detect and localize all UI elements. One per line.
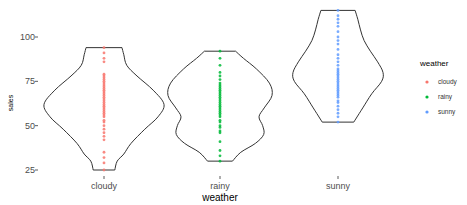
point-sunny [337, 53, 340, 56]
point-cloudy [103, 162, 106, 165]
y-tick-label: 50 [25, 121, 35, 131]
legend-label-rainy: rainy [438, 93, 453, 101]
x-tick-label: cloudy [91, 181, 118, 191]
point-cloudy [103, 60, 106, 63]
point-cloudy [103, 46, 106, 49]
x-axis-title: weather [201, 192, 238, 203]
point-rainy [219, 140, 222, 143]
legend-label-sunny: sunny [438, 108, 456, 116]
point-cloudy [103, 119, 106, 122]
x-tick-label: rainy [210, 181, 230, 191]
point-cloudy [103, 151, 106, 154]
point-sunny [337, 64, 340, 67]
legend-label-cloudy: cloudy [438, 78, 458, 86]
point-sunny [337, 121, 340, 124]
point-rainy [219, 82, 222, 85]
point-sunny [337, 108, 340, 111]
point-sunny [337, 43, 340, 46]
point-cloudy [103, 124, 106, 127]
point-rainy [219, 124, 222, 127]
point-cloudy [103, 138, 106, 141]
point-sunny [337, 18, 340, 21]
point-rainy [219, 154, 222, 157]
point-cloudy [103, 73, 106, 76]
point-cloudy [103, 131, 106, 134]
legend-key-rainy [425, 95, 428, 98]
point-rainy [219, 78, 222, 81]
point-sunny [337, 60, 340, 63]
legend-key-cloudy [425, 80, 428, 83]
point-sunny [337, 39, 340, 42]
point-sunny [337, 14, 340, 17]
point-rainy [219, 130, 222, 133]
point-rainy [219, 50, 222, 53]
violin-chart: 255075100 cloudyrainysunny weather sales… [0, 0, 467, 205]
legend-title: weather [419, 59, 449, 68]
point-sunny [337, 30, 340, 33]
data-points [103, 9, 340, 171]
x-tick-label: sunny [326, 181, 351, 191]
point-sunny [337, 105, 340, 108]
point-sunny [337, 99, 340, 102]
y-tick-label: 100 [20, 32, 35, 42]
point-sunny [337, 57, 340, 60]
point-sunny [337, 112, 340, 115]
point-cloudy [103, 135, 106, 138]
y-tick-label: 75 [25, 76, 35, 86]
violins [44, 10, 383, 170]
point-sunny [337, 21, 340, 24]
legend: weather cloudyrainysunny [419, 59, 458, 116]
point-cloudy [103, 169, 106, 172]
legend-key-sunny [425, 110, 428, 113]
x-axis: cloudyrainysunny [91, 176, 351, 191]
point-cloudy [103, 57, 106, 60]
point-rainy [219, 160, 222, 163]
y-tick-label: 25 [25, 165, 35, 175]
point-cloudy [103, 156, 106, 159]
point-sunny [337, 25, 340, 28]
point-sunny [337, 48, 340, 51]
plot-area [44, 9, 383, 171]
y-axis: 255075100 [20, 32, 38, 175]
point-rainy [219, 149, 222, 152]
point-rainy [219, 75, 222, 78]
point-cloudy [103, 52, 106, 55]
point-sunny [337, 68, 340, 71]
point-sunny [337, 36, 340, 39]
point-rainy [219, 71, 222, 74]
point-rainy [219, 64, 222, 67]
point-rainy [219, 119, 222, 122]
y-axis-title: sales [7, 94, 14, 111]
point-sunny [337, 115, 340, 118]
point-rainy [219, 57, 222, 60]
point-sunny [337, 9, 340, 12]
point-cloudy [103, 128, 106, 131]
